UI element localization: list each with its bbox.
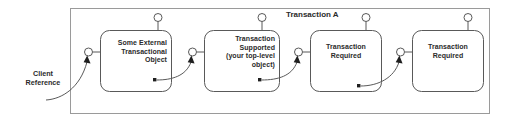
label-line: Transaction [205, 35, 275, 44]
component-label-transaction-required-1: Transaction Required [311, 43, 381, 60]
label-line: Required [413, 52, 483, 61]
label-line: (your top-level [205, 52, 275, 61]
label-line: Object [101, 56, 167, 65]
bottom-socket-icon [258, 78, 261, 81]
left-lollipop-icon [397, 48, 413, 56]
component-label-transaction-supported: Transaction Supported (your top-level ob… [205, 35, 275, 69]
top-lollipop-icon [154, 14, 162, 31]
label-line: Transaction [413, 43, 483, 52]
bottom-socket-icon [357, 84, 360, 87]
label-line: Required [311, 52, 381, 61]
component-label-transaction-required-2: Transaction Required [413, 43, 483, 60]
label-line: Transactional [101, 48, 167, 57]
component-box [413, 31, 484, 92]
transaction-boundary-title: Transaction A [286, 10, 339, 19]
top-lollipop-icon [258, 14, 266, 31]
left-lollipop-icon [295, 48, 311, 56]
component-box [311, 31, 382, 92]
label-line: Some External [101, 39, 167, 48]
left-lollipop-icon [85, 48, 101, 56]
diagram-canvas: .box{fill:#ffffff;stroke:#595959;stroke-… [0, 0, 516, 126]
left-lollipop-icon [189, 48, 205, 56]
label-line: Transaction [311, 43, 381, 52]
client-reference-label: Client Reference [12, 69, 74, 88]
label-line: Supported [205, 44, 275, 53]
top-lollipop-icon [464, 14, 472, 31]
top-lollipop-icon [362, 14, 370, 31]
component-label-some-external-transactional-object: Some External Transactional Object [101, 39, 167, 65]
label-line: object) [205, 61, 275, 70]
bottom-socket-icon [153, 78, 156, 81]
